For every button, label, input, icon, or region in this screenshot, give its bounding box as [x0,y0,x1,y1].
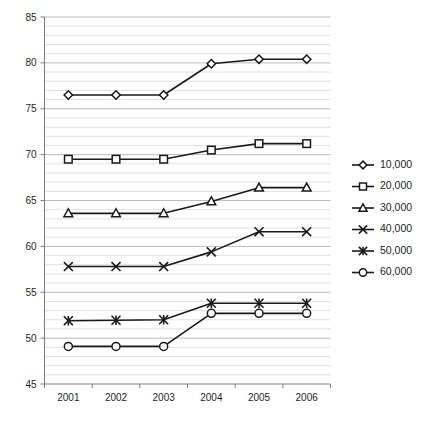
data-point-marker [207,309,215,317]
x-tick-label: 2003 [153,392,176,403]
y-tick-label: 65 [25,195,37,206]
legend-label: 60,000 [380,265,412,277]
data-point-marker [207,60,215,68]
diamond-icon [359,161,367,169]
data-point-marker [160,342,168,350]
series-10000 [64,55,311,99]
triangle-icon [359,204,367,211]
series-60000 [64,309,310,350]
data-point-marker [64,342,72,350]
legend-item-40000[interactable]: 40,000 [352,222,412,234]
y-tick-label: 50 [25,333,37,344]
data-point-marker [159,91,167,99]
major-gridlines-group [45,17,331,338]
chart-canvas: 858075706560555045 200120022003200420052… [0,0,423,423]
data-point-marker [160,155,168,163]
y-tick-label: 85 [25,12,37,23]
legend-label: 20,000 [380,179,412,191]
series-20000 [65,140,311,163]
series-50000 [64,299,311,326]
circle-icon [359,269,366,276]
legend-item-10000[interactable]: 10,000 [352,158,412,170]
y-axis-tick-labels: 858075706560555045 [25,12,37,390]
data-point-marker [65,155,73,163]
data-point-marker [208,146,216,154]
y-tick-label: 70 [25,149,37,160]
legend-item-50000[interactable]: 50,000 [352,244,412,256]
x-tick-marks-group [45,384,331,388]
legend-label: 10,000 [380,158,412,170]
series-line [68,144,306,160]
data-point-marker [302,55,310,63]
data-point-marker [303,140,311,148]
y-tick-label: 75 [25,103,37,114]
data-point-marker [112,342,120,350]
data-point-marker [64,91,72,99]
data-point-marker [112,155,120,163]
series-30000 [64,183,311,217]
square-icon [360,183,367,190]
series-line [68,313,306,346]
data-point-marker [255,309,263,317]
data-point-marker [207,247,216,256]
y-tick-label: 55 [25,287,37,298]
y-tick-label: 60 [25,241,37,252]
chart-legend: 10,00020,00030,00040,00050,00060,000 [352,158,412,278]
x-tick-label: 2006 [296,392,319,403]
x-tick-label: 2002 [105,392,128,403]
line-chart: 858075706560555045 200120022003200420052… [0,0,423,423]
data-point-marker [255,55,263,63]
series-line [68,303,306,320]
legend-label: 50,000 [380,244,412,256]
legend-item-30000[interactable]: 30,000 [352,201,412,213]
y-tick-marks-group [41,17,45,384]
legend-label: 30,000 [380,201,412,213]
data-point-marker [112,91,120,99]
legend-item-60000[interactable]: 60,000 [352,265,412,277]
data-point-marker [303,309,311,317]
x-tick-label: 2001 [57,392,80,403]
y-tick-label: 45 [25,379,37,390]
legend-item-20000[interactable]: 20,000 [352,179,412,191]
x-tick-label: 2005 [248,392,271,403]
x-axis-tick-labels: 200120022003200420052006 [57,392,318,403]
x-tick-label: 2004 [200,392,223,403]
y-tick-label: 80 [25,57,37,68]
legend-label: 40,000 [380,222,412,234]
data-point-marker [255,140,263,148]
series-line [68,59,306,95]
